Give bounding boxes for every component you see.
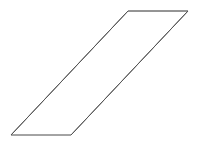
parallelogram-diagram	[0, 0, 199, 145]
figure-canvas	[0, 0, 199, 145]
canvas-background	[0, 0, 199, 145]
